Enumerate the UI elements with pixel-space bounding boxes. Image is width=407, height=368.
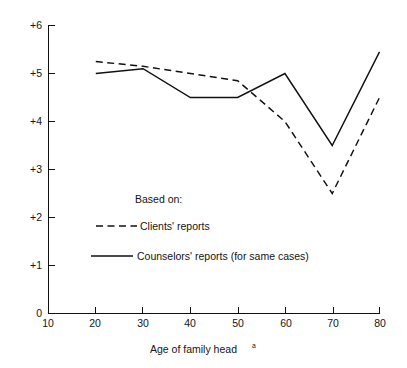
- x-tick-label-70: 70: [327, 317, 339, 329]
- y-tick-label-4: +4: [30, 115, 42, 127]
- legend-label-clients-reports: Clients' reports: [140, 220, 210, 232]
- x-tick-label-50: 50: [232, 317, 244, 329]
- x-tick-label-80: 80: [374, 317, 386, 329]
- legend-label-counselors-reports: Counselors' reports (for same cases): [137, 250, 309, 262]
- chart-container: +6 +5 +4 +3 +2 +1 0 10 20 30 40 50 60 70…: [0, 0, 407, 368]
- x-tick-label-10: 10: [42, 317, 54, 329]
- x-tick-label-60: 60: [280, 317, 292, 329]
- legend-heading: Based on:: [135, 193, 182, 205]
- series-line-counselors-reports: [96, 52, 380, 146]
- x-axis-title: Age of family head: [150, 343, 237, 355]
- series-group: [96, 52, 380, 194]
- y-tick-label-5: +5: [30, 67, 42, 79]
- x-axis-title-footnote-marker: a: [252, 342, 256, 349]
- y-tick-label-2: +2: [30, 211, 42, 223]
- x-tick-label-30: 30: [137, 317, 149, 329]
- legend: Based on: Clients' reports Counselors' r…: [91, 193, 309, 262]
- y-tick-label-1: +1: [30, 259, 42, 271]
- y-tick-label-3: +3: [30, 163, 42, 175]
- x-tick-label-40: 40: [184, 317, 196, 329]
- x-tick-label-20: 20: [89, 317, 101, 329]
- line-chart: +6 +5 +4 +3 +2 +1 0 10 20 30 40 50 60 70…: [0, 0, 407, 368]
- y-axis: +6 +5 +4 +3 +2 +1 0: [30, 19, 55, 319]
- series-line-clients-reports: [96, 62, 380, 194]
- x-axis: 10 20 30 40 50 60 70 80 Age of family he…: [42, 307, 386, 355]
- y-tick-label-6: +6: [30, 19, 42, 31]
